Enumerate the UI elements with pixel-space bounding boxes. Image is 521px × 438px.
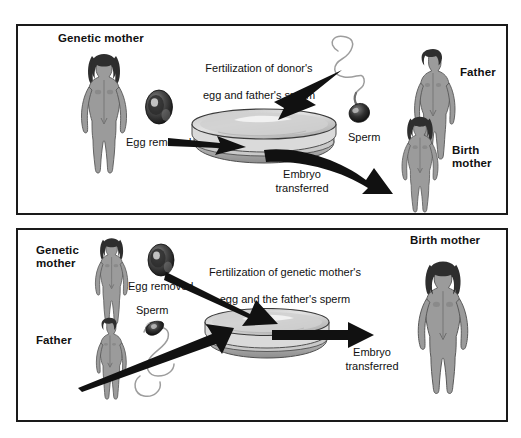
cropped-caption-fragment — [26, 0, 226, 6]
panel2-label-embryo-transferred: Embryo transferred — [336, 346, 408, 374]
panel1-label-birth-mother: Birth mother — [452, 144, 492, 171]
figure-canvas: Genetic mother — [0, 0, 521, 438]
panel2-arrow-dish-to-birth-mother — [272, 322, 376, 348]
panel1-genetic-mother-figure — [74, 48, 134, 176]
panel-donor-egg-surrogacy: Genetic mother — [16, 24, 508, 215]
panel2-label-father: Father — [36, 334, 72, 347]
panel1-arrow-egg-to-dish — [168, 134, 248, 158]
panel1-ovum-icon — [142, 88, 176, 130]
panel1-label-genetic-mother: Genetic mother — [58, 32, 144, 45]
panel2-label-birth-mother: Birth mother — [410, 234, 480, 247]
panel-gestational-surrogacy: Genetic mother — [16, 228, 508, 422]
panel2-birth-mother-figure — [410, 256, 482, 404]
panel1-arrow-sperm-to-dish — [254, 68, 346, 130]
panel1-label-sperm: Sperm — [348, 131, 380, 144]
panel1-birth-mother-figure — [396, 112, 454, 214]
panel1-label-father: Father — [460, 66, 496, 79]
panel2-arrow-sperm-to-dish — [76, 322, 236, 392]
panel2-label-genetic-mother: Genetic mother — [36, 244, 79, 271]
panel1-label-embryo-transferred: Embryo transferred — [266, 168, 338, 196]
